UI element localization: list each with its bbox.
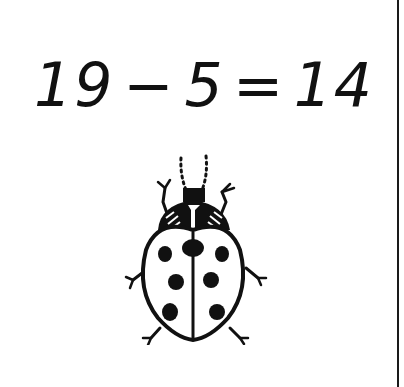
operand-b: 5: [185, 50, 225, 120]
right-divider: [397, 0, 399, 387]
operand-a: 19: [34, 50, 114, 120]
result: 14: [294, 50, 374, 120]
math-card: 19 − 5 = 14: [0, 0, 404, 387]
equals-sign: =: [233, 50, 285, 120]
subtraction-equation: 19 − 5 = 14: [34, 50, 374, 120]
minus-sign: −: [123, 50, 175, 120]
ladybug-icon: [118, 150, 268, 345]
